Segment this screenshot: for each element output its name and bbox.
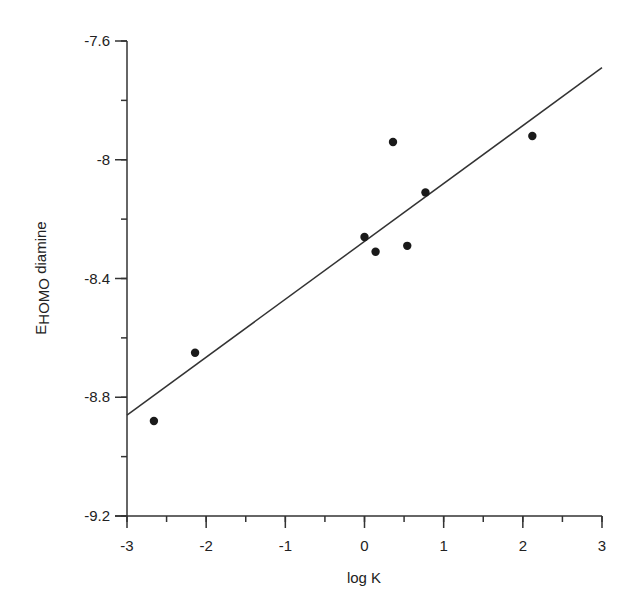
x-tick-label: 3 — [598, 537, 606, 554]
y-axis-title: EHOMO diamine — [32, 221, 52, 334]
y-tick-label: -8 — [97, 151, 110, 168]
y-axis-title-rest: diamine — [32, 221, 49, 278]
y-axis-title-sub: HOMO — [35, 278, 52, 325]
data-point — [528, 132, 536, 140]
regression-line — [127, 68, 602, 415]
x-tick-label: -3 — [120, 537, 133, 554]
data-point — [191, 349, 199, 357]
x-tick-label: -2 — [199, 537, 212, 554]
data-point — [371, 248, 379, 256]
x-tick-label: -1 — [279, 537, 292, 554]
x-tick-label: 0 — [360, 537, 368, 554]
x-tick-label: 2 — [519, 537, 527, 554]
x-axis-title: log K — [347, 569, 381, 586]
data-point — [421, 188, 429, 196]
x-axis: -3-2-10123 — [115, 516, 606, 554]
y-axis: -9.2-8.8-8.4-8-7.6 — [84, 32, 127, 524]
y-tick-label: -7.6 — [84, 32, 110, 49]
y-axis-title-main: E — [32, 325, 49, 335]
data-point — [360, 233, 368, 241]
x-tick-label: 1 — [439, 537, 447, 554]
data-points — [150, 132, 537, 425]
data-point — [389, 138, 397, 146]
data-point — [150, 417, 158, 425]
fit-line-segment — [127, 68, 602, 415]
y-tick-label: -8.4 — [84, 270, 110, 287]
y-tick-label: -9.2 — [84, 507, 110, 524]
y-tick-label: -8.8 — [84, 388, 110, 405]
scatter-chart: -9.2-8.8-8.4-8-7.6 -3-2-10123 log K EHOM… — [0, 0, 633, 610]
data-point — [403, 242, 411, 250]
